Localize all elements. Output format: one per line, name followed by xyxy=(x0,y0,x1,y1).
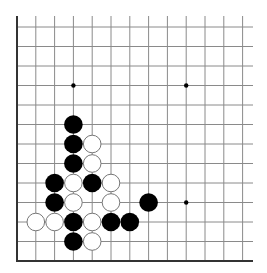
white-stone xyxy=(83,135,101,153)
black-stone xyxy=(121,213,140,232)
black-stone xyxy=(139,193,158,212)
star-point xyxy=(184,200,188,204)
black-stone xyxy=(102,213,121,232)
white-stone xyxy=(102,194,120,212)
white-stone xyxy=(46,213,64,231)
black-stone xyxy=(64,213,83,232)
star-point xyxy=(71,83,75,87)
white-stone xyxy=(102,174,120,192)
black-stone xyxy=(83,174,102,193)
white-stone xyxy=(83,233,101,251)
black-stone xyxy=(64,115,83,134)
black-stone xyxy=(64,154,83,173)
star-point xyxy=(184,83,188,87)
black-stone xyxy=(45,174,64,193)
go-board xyxy=(0,0,267,273)
black-stone xyxy=(64,135,83,154)
white-stone xyxy=(27,213,45,231)
black-stone xyxy=(45,193,64,212)
black-stone xyxy=(64,232,83,251)
white-stone xyxy=(65,194,83,212)
white-stone xyxy=(83,155,101,173)
white-stone xyxy=(83,213,101,231)
white-stone xyxy=(65,174,83,192)
